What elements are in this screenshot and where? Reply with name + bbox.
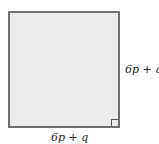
bottom-side-label: 6p + q — [51, 132, 88, 143]
right-angle-marker-icon — [111, 119, 118, 126]
right-side-label: 6p + q — [125, 64, 159, 75]
square-shape — [8, 11, 120, 128]
